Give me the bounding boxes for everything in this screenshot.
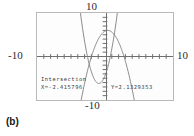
intersection-readout-y: Y=2.1329353 <box>111 84 153 90</box>
calculator-screen: Intersection X=-2.415796 Y=2.1329353 <box>36 12 174 101</box>
axis-label-left: -10 <box>8 50 23 61</box>
axis-label-right: 10 <box>177 50 188 61</box>
axis-label-top: 10 <box>86 1 97 12</box>
intersection-readout-x: X=-2.415796 <box>41 84 83 90</box>
figure-caption: (b) <box>6 116 19 128</box>
intersection-readout-title: Intersection <box>41 76 87 82</box>
graphing-calculator-figure: 10 -10 10 -10 Intersection X=-2.415796 Y… <box>0 0 194 136</box>
axis-label-bottom: -10 <box>85 100 100 111</box>
curve-upward-parabola <box>78 13 119 83</box>
